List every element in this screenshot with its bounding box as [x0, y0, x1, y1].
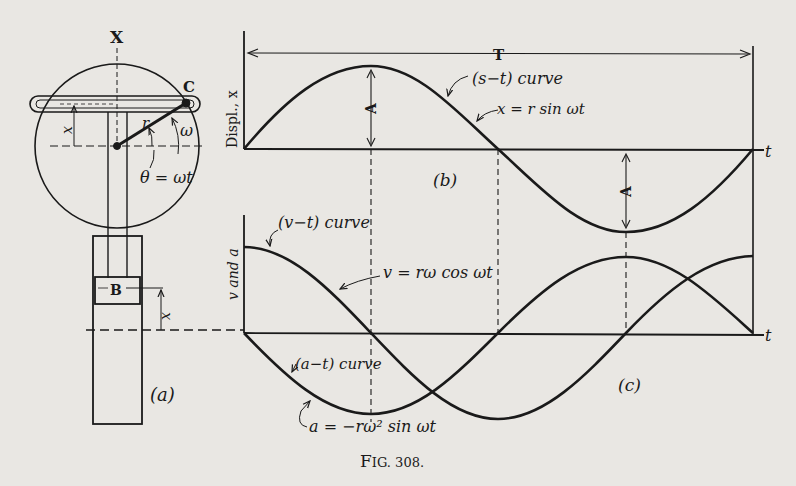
- s-t-curve-name: (s−t) curve: [472, 69, 563, 88]
- panel-a-label: (a): [150, 384, 175, 405]
- block-label: B: [110, 282, 122, 298]
- v-t-curve-name: (v−t) curve: [278, 213, 370, 232]
- period-label: T: [493, 46, 505, 64]
- x-axis-label: X: [110, 27, 124, 47]
- s-t-equation: x = r sin ωt: [497, 100, 586, 118]
- b-t-label: t: [765, 142, 772, 161]
- amplitude-label-2: A: [618, 185, 634, 198]
- figure-canvas: X C r ω θ = ωt x B x (a) Displ., x t T A…: [0, 0, 796, 486]
- top-x-label: x: [59, 126, 75, 134]
- b-x-axis: [244, 149, 764, 150]
- theta-label: θ = ωt: [140, 168, 193, 187]
- panel-a-mechanism: [30, 48, 244, 424]
- v-equation: v = rω cos ωt: [383, 263, 493, 282]
- a-t-curve-name: (a−t) curve: [295, 355, 382, 373]
- radius-label: r: [142, 114, 150, 132]
- c-t-label: t: [765, 326, 772, 345]
- figure-caption: FIG. 308.: [360, 451, 424, 471]
- c-x-axis: [244, 333, 764, 335]
- amplitude-label: A: [363, 102, 379, 115]
- c-y-axis-label: v and a: [225, 249, 241, 300]
- crank-pin-label: C: [183, 78, 195, 96]
- a-equation: a = −rω² sin ωt: [309, 417, 436, 436]
- panel-b-label: (b): [433, 170, 457, 190]
- b-y-axis-label: Displ., x: [224, 90, 240, 148]
- crank-pin: [182, 99, 190, 107]
- panel-c-velocity-acceleration-plot: [244, 215, 764, 427]
- panel-c-label: (c): [618, 375, 641, 395]
- omega-label: ω: [180, 121, 193, 140]
- block-x-label: x: [157, 312, 173, 320]
